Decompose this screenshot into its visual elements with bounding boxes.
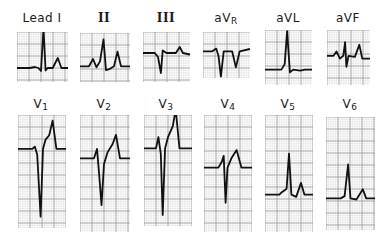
lead-label-ii: II bbox=[98, 11, 110, 25]
lead-label-v4: V4 bbox=[221, 97, 236, 112]
ecg-grid bbox=[265, 115, 313, 232]
ecg-grid bbox=[80, 115, 130, 232]
ecg-grid bbox=[265, 30, 312, 85]
ecg-grid bbox=[143, 32, 190, 82]
ecg-panel-i bbox=[17, 32, 68, 82]
ecg-panel-v2 bbox=[80, 115, 130, 232]
lead-label-avr: aVR bbox=[214, 11, 237, 26]
ecg-panel-v1 bbox=[18, 115, 66, 228]
ecg-panel-avr bbox=[203, 32, 250, 78]
ecg-panel-v5 bbox=[265, 115, 313, 232]
ecg-grid bbox=[18, 115, 66, 228]
ecg-grid bbox=[203, 32, 250, 78]
lead-label-v1: V1 bbox=[34, 97, 49, 112]
ecg-grid bbox=[80, 33, 130, 82]
ecg-grid bbox=[144, 115, 192, 226]
lead-label-v6: V6 bbox=[343, 97, 358, 112]
ecg-panel-iii bbox=[143, 32, 190, 82]
lead-label-i: Lead I bbox=[22, 11, 61, 25]
lead-label-v2: V2 bbox=[97, 97, 112, 112]
ecg-panel-v4 bbox=[204, 115, 252, 232]
lead-label-v5: V5 bbox=[281, 97, 296, 112]
lead-label-avl: aVL bbox=[276, 11, 300, 25]
ecg-grid bbox=[327, 30, 370, 85]
ecg-panel-ii bbox=[80, 33, 130, 82]
ecg-panel-v3 bbox=[144, 115, 192, 226]
lead-label-avf: aVF bbox=[336, 11, 360, 25]
lead-label-v3: V3 bbox=[159, 97, 174, 112]
ecg-grid bbox=[326, 117, 375, 230]
lead-label-iii: III bbox=[157, 11, 175, 25]
ecg-panel-v6 bbox=[326, 117, 375, 230]
ecg-panel-avf bbox=[327, 30, 370, 85]
ecg-panel-avl bbox=[265, 30, 312, 85]
ecg-grid bbox=[204, 115, 252, 232]
ecg-grid bbox=[17, 32, 68, 82]
